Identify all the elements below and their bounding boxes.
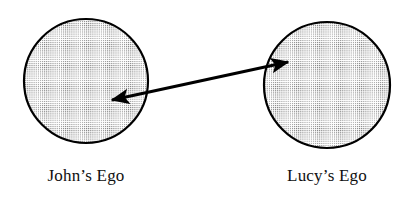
diagram-canvas: John’s Ego Lucy’s Ego	[0, 0, 416, 201]
lucy-ego-label: Lucy’s Ego	[237, 167, 416, 184]
node-john-ego[interactable]	[24, 19, 148, 143]
john-ego-label: John’s Ego	[0, 167, 176, 184]
node-lucy-ego[interactable]	[264, 22, 390, 148]
lucy-ego-circle[interactable]	[264, 22, 390, 148]
john-ego-circle[interactable]	[24, 19, 148, 143]
